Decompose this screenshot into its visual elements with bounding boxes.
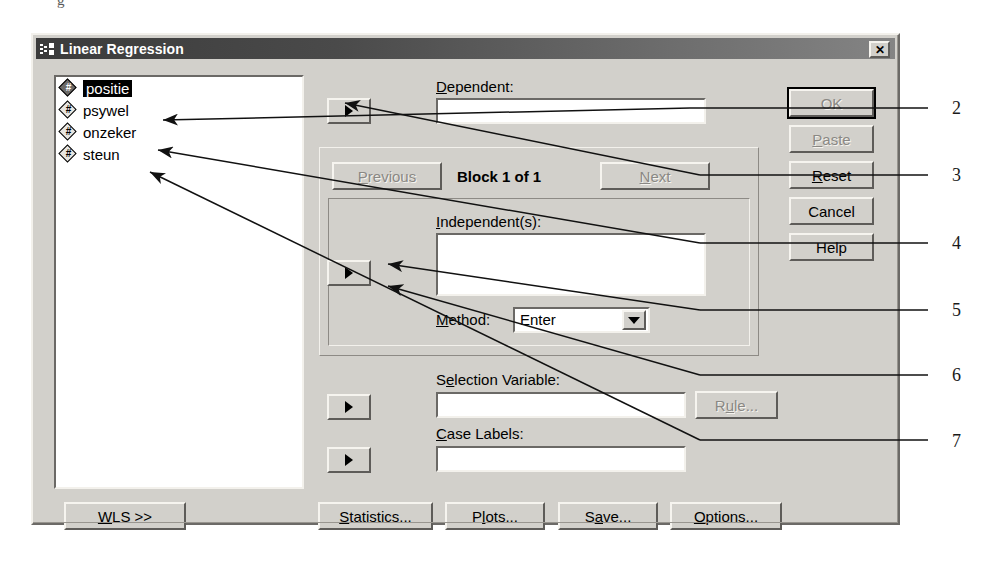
numeric-variable-icon: # (60, 147, 77, 162)
numeric-variable-icon: # (60, 103, 77, 118)
dependent-move-button[interactable] (327, 98, 371, 124)
statistics-button[interactable]: Statistics... (318, 502, 433, 530)
independents-list[interactable] (436, 233, 706, 296)
next-button[interactable]: Next (600, 162, 710, 190)
selection-variable-move-button[interactable] (327, 394, 371, 420)
previous-button[interactable]: Previous (332, 162, 442, 190)
list-item-label: steun (83, 146, 120, 163)
source-variable-list[interactable]: # positie # psywel # onzeker # steun (54, 75, 304, 489)
arrow-right-icon (345, 454, 353, 466)
arrow-right-icon (345, 267, 353, 279)
numeric-variable-icon: # (60, 81, 77, 96)
case-labels-label: Case Labels: (436, 425, 524, 442)
help-button[interactable]: Help (789, 233, 874, 261)
wls-button[interactable]: WLS >> (64, 502, 186, 530)
annotation-number: 2 (952, 98, 961, 119)
annotation-number: 6 (952, 365, 961, 386)
list-item[interactable]: # positie (56, 77, 302, 99)
paste-button[interactable]: Paste (789, 125, 874, 153)
independents-label: Independent(s): (436, 213, 541, 230)
linear-regression-dialog: Linear Regression ✕ # positie # psywel #… (31, 33, 900, 525)
chevron-down-icon[interactable] (622, 310, 646, 330)
scan-artifact: g (57, 0, 65, 9)
plots-button[interactable]: Plots... (445, 502, 545, 530)
annotation-number: 5 (952, 300, 961, 321)
selection-variable-label: Selection Variable: (436, 371, 560, 388)
dependent-input[interactable] (436, 98, 706, 124)
independents-move-button[interactable] (327, 260, 371, 286)
list-item[interactable]: # steun (56, 143, 302, 165)
method-label: Method: (436, 311, 490, 328)
save-button[interactable]: Save... (558, 502, 658, 530)
list-item-label: positie (83, 80, 132, 97)
reset-button[interactable]: Reset (789, 161, 874, 189)
annotation-number: 7 (952, 431, 961, 452)
list-item-label: onzeker (83, 124, 136, 141)
list-item-label: psywel (83, 102, 129, 119)
case-labels-move-button[interactable] (327, 447, 371, 473)
annotation-number: 4 (952, 233, 961, 254)
list-item[interactable]: # psywel (56, 99, 302, 121)
annotation-number: 3 (952, 165, 961, 186)
close-icon[interactable]: ✕ (869, 41, 890, 58)
spss-variable-icon (40, 42, 55, 56)
cancel-button[interactable]: Cancel (789, 197, 874, 225)
ok-button[interactable]: OK (789, 89, 874, 117)
numeric-variable-icon: # (60, 125, 77, 140)
case-labels-input[interactable] (436, 446, 686, 472)
method-value: Enter (515, 311, 622, 329)
arrow-right-icon (345, 105, 353, 117)
method-select[interactable]: Enter (513, 307, 650, 333)
window-title: Linear Regression (60, 42, 184, 56)
arrow-right-icon (345, 401, 353, 413)
options-button[interactable]: Options... (670, 502, 782, 530)
rule-button[interactable]: Rule... (695, 391, 778, 419)
list-item[interactable]: # onzeker (56, 121, 302, 143)
title-bar: Linear Regression ✕ (36, 38, 895, 59)
dependent-label: Dependent: (436, 78, 514, 95)
selection-variable-input[interactable] (436, 392, 686, 418)
block-counter: Block 1 of 1 (457, 168, 541, 185)
